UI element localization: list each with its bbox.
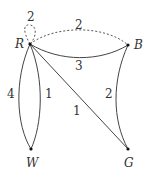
weight-R-W-outer: 4 — [7, 88, 15, 100]
vertex-label-G: G — [124, 157, 134, 169]
weight-R-R-loop: 2 — [27, 11, 35, 23]
weight-R-G: 1 — [73, 105, 81, 117]
vertex-G — [126, 147, 129, 150]
edge-R-B-solid — [30, 44, 128, 58]
vertex-R — [28, 42, 31, 45]
graph-edges — [0, 0, 147, 174]
weight-R-B-dashed: 2 — [75, 19, 83, 31]
weight-R-B-solid: 3 — [75, 60, 83, 72]
edge-R-W-inner — [30, 44, 40, 149]
edge-R-B-dashed — [30, 30, 128, 45]
edge-R-W-outer — [19, 44, 31, 149]
weight-R-W-inner: 1 — [45, 88, 53, 100]
graph-diagram: R B W G 2 2 3 4 1 1 2 — [0, 0, 147, 174]
vertex-label-R: R — [15, 38, 24, 50]
vertex-W — [29, 147, 32, 150]
edge-B-G — [116, 45, 128, 149]
weight-B-G: 2 — [105, 88, 113, 100]
vertex-label-B: B — [134, 39, 143, 51]
vertex-B — [126, 43, 129, 46]
vertex-label-W: W — [26, 157, 38, 169]
